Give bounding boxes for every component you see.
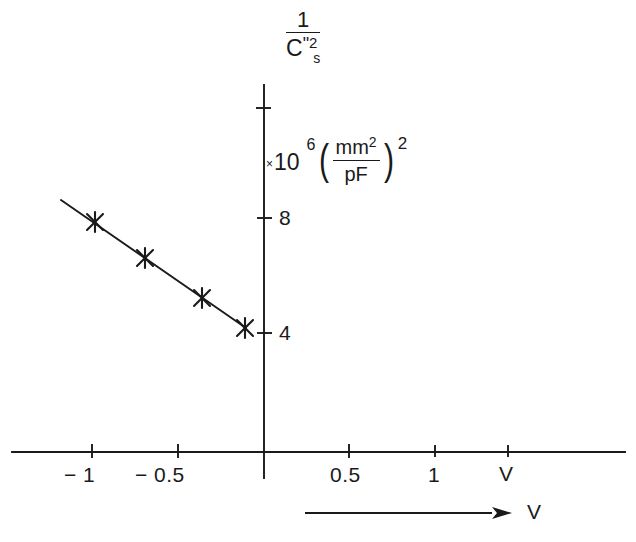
y-axis-label-denominator-base: C — [286, 35, 303, 61]
data-point-marker — [194, 288, 210, 308]
x-tick-label--1: − 1 — [64, 463, 95, 487]
unit-fraction: mm2 pF — [333, 134, 380, 186]
y-tick-label-8: 8 — [279, 206, 291, 230]
data-point-marker — [137, 248, 153, 268]
x-tick-label--0.5: − 0.5 — [135, 463, 185, 487]
unit-numerator: mm2 — [333, 134, 380, 161]
y-tick-label-4: 4 — [279, 321, 291, 345]
unit-numerator-base: mm — [336, 136, 369, 158]
y-axis-label-denominator: C"2s — [286, 33, 320, 65]
unit-outer-exponent: 2 — [398, 134, 407, 154]
y-axis-label-denominator-subscript: s — [313, 50, 320, 66]
x-tick-label-1: 1 — [428, 463, 440, 487]
data-point-marker — [87, 212, 103, 232]
y-axis-label: 1 C"2s — [286, 8, 320, 65]
chart-figure: 1 C"2s × 10 6 ( mm2 pF ) 2 8 4 − 1 − 0.5… — [0, 0, 636, 542]
x-direction-arrow-head — [492, 507, 512, 519]
x-axis-unit-label: V — [499, 462, 513, 486]
data-trend-line — [61, 200, 246, 328]
y-axis-label-denominator-exponent: 2 — [309, 34, 317, 51]
scale-exponent: 6 — [307, 134, 316, 154]
unit-denominator: pF — [344, 161, 367, 186]
data-point-marker — [237, 318, 253, 338]
x-tick-label-0.5: 0.5 — [330, 463, 361, 487]
multiplication-sign-icon: × — [266, 150, 273, 171]
right-paren: ) — [384, 140, 394, 180]
plot-canvas — [0, 0, 636, 542]
y-axis-scale-annotation: × 10 6 ( mm2 pF ) 2 — [266, 134, 407, 186]
scale-mantissa: 10 — [274, 145, 300, 176]
unit-numerator-exponent: 2 — [369, 134, 377, 150]
y-axis-label-numerator: 1 — [286, 8, 320, 33]
left-paren: ( — [318, 140, 328, 180]
x-direction-arrow-label: V — [527, 500, 541, 524]
